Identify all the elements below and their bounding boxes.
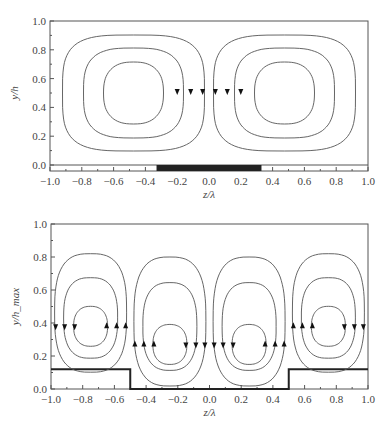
y-axis-label: y/h bbox=[8, 86, 20, 101]
arrow-down-icon bbox=[72, 324, 77, 330]
arrow-up-icon bbox=[114, 322, 119, 328]
streamline bbox=[255, 62, 315, 124]
arrow-up-icon bbox=[282, 340, 287, 346]
arrow-up-icon bbox=[104, 322, 109, 328]
arrow-down-icon bbox=[352, 324, 357, 330]
y-tick-label: 0.4 bbox=[33, 317, 47, 329]
chart-panel-2: 0.00.20.40.60.81.0−1.0−0.8−0.6−0.4−0.20.… bbox=[9, 218, 375, 418]
x-tick-label: 0.4 bbox=[266, 393, 280, 405]
arrow-down-icon bbox=[238, 89, 243, 95]
x-axis-label: z/λ bbox=[202, 188, 215, 200]
x-tick-label: −0.4 bbox=[135, 175, 155, 187]
y-tick-label: 1.0 bbox=[32, 15, 46, 27]
x-tick-label: 0.0 bbox=[202, 175, 216, 187]
arrow-down-icon bbox=[175, 89, 180, 95]
y-tick-label: 0.6 bbox=[32, 73, 46, 85]
streamline bbox=[153, 324, 187, 364]
y-tick-label: 0.2 bbox=[33, 350, 47, 362]
x-tick-label: −1.0 bbox=[41, 393, 61, 405]
arrow-up-icon bbox=[263, 340, 268, 346]
arrow-down-icon bbox=[62, 324, 67, 330]
arrow-up-icon bbox=[300, 322, 305, 328]
arrow-down-icon bbox=[188, 89, 193, 95]
arrow-down-icon bbox=[202, 342, 207, 348]
streamline bbox=[222, 283, 276, 371]
x-tick-label: 0.2 bbox=[234, 393, 248, 405]
streamline bbox=[292, 254, 364, 373]
streamline bbox=[84, 48, 184, 138]
arrow-down-icon bbox=[183, 342, 188, 348]
streamline bbox=[104, 62, 164, 124]
y-tick-label: 0.6 bbox=[33, 284, 47, 296]
streamline bbox=[143, 283, 197, 371]
y-axis-label: y/h_max bbox=[9, 288, 21, 326]
arrow-up-icon bbox=[291, 322, 296, 328]
arrow-down-icon bbox=[221, 342, 226, 348]
x-tick-label: 1.0 bbox=[361, 175, 375, 187]
arrow-up-icon bbox=[151, 340, 156, 346]
y-tick-label: 1.0 bbox=[33, 218, 47, 230]
heated-segment bbox=[157, 165, 262, 171]
arrow-up-icon bbox=[123, 322, 128, 328]
streamline bbox=[311, 306, 345, 346]
arrow-down-icon bbox=[342, 324, 347, 330]
x-tick-label: −0.2 bbox=[167, 175, 187, 187]
plot-frame bbox=[50, 21, 368, 171]
arrow-up-icon bbox=[132, 340, 137, 346]
x-tick-label: −0.6 bbox=[104, 393, 124, 405]
figure: 0.00.20.40.60.81.0−1.0−0.8−0.6−0.4−0.20.… bbox=[0, 0, 391, 436]
arrow-down-icon bbox=[231, 342, 236, 348]
y-tick-label: 0.0 bbox=[32, 159, 46, 171]
x-tick-label: 0.2 bbox=[234, 175, 248, 187]
streamline bbox=[235, 48, 335, 138]
x-tick-label: −0.2 bbox=[168, 393, 188, 405]
arrow-down-icon bbox=[193, 342, 198, 348]
y-tick-label: 0.8 bbox=[33, 251, 47, 263]
arrow-up-icon bbox=[141, 340, 146, 346]
y-tick-label: 0.2 bbox=[32, 130, 46, 142]
streamline bbox=[213, 257, 285, 386]
x-tick-label: 0.4 bbox=[266, 175, 280, 187]
streamline bbox=[74, 306, 108, 346]
chart-panel-1: 0.00.20.40.60.81.0−1.0−0.8−0.6−0.4−0.20.… bbox=[0, 0, 375, 200]
y-tick-label: 0.4 bbox=[32, 101, 46, 113]
streamline bbox=[55, 254, 127, 373]
x-tick-label: −0.4 bbox=[136, 393, 156, 405]
arrow-down-icon bbox=[225, 89, 230, 95]
arrow-down-icon bbox=[212, 342, 217, 348]
x-tick-label: 0.8 bbox=[329, 393, 343, 405]
x-tick-label: −0.8 bbox=[72, 175, 92, 187]
plot-frame bbox=[51, 224, 368, 389]
x-tick-label: 0.6 bbox=[298, 393, 312, 405]
x-tick-label: 0.0 bbox=[203, 393, 217, 405]
x-tick-label: 0.6 bbox=[298, 175, 312, 187]
x-axis-label: z/λ bbox=[202, 406, 215, 418]
arrow-down-icon bbox=[361, 324, 366, 330]
x-tick-label: −1.0 bbox=[40, 175, 60, 187]
y-tick-label: 0.8 bbox=[32, 44, 46, 56]
streamline bbox=[134, 257, 206, 386]
arrow-up-icon bbox=[310, 322, 315, 328]
arrow-up-icon bbox=[273, 340, 278, 346]
x-tick-label: 0.8 bbox=[329, 175, 343, 187]
arrow-down-icon bbox=[53, 324, 58, 330]
streamline bbox=[232, 324, 266, 364]
x-tick-label: 1.0 bbox=[361, 393, 375, 405]
x-tick-label: −0.8 bbox=[73, 393, 93, 405]
x-tick-label: −0.6 bbox=[104, 175, 124, 187]
